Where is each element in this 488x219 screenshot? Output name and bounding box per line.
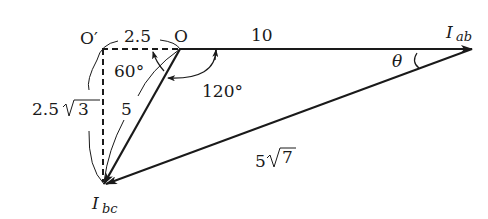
label-2-5-root3: 2.5 3	[32, 99, 100, 119]
label-2-5: 2.5	[124, 26, 151, 46]
label-o-prime: O′	[80, 28, 98, 48]
dimension-arc-5	[138, 49, 180, 96]
dimension-arc-5-lower	[104, 120, 124, 182]
label-o: O	[174, 26, 188, 46]
angle-arc-60	[153, 52, 164, 71]
svg-text:3: 3	[78, 99, 89, 119]
dimension-arc-2-5-root3	[88, 60, 97, 90]
label-120-deg: 120°	[202, 81, 243, 101]
svg-text:I: I	[445, 22, 453, 42]
label-5-root7: 5 7	[255, 147, 296, 171]
label-theta: θ	[392, 51, 402, 71]
svg-text:2.5: 2.5	[32, 99, 59, 119]
angle-arc-theta	[414, 53, 419, 68]
phasor-diagram: O′ O 2.5 10 60° 120° 5 2.5 3 5 7 θ I ab …	[0, 0, 488, 219]
svg-text:7: 7	[282, 147, 293, 167]
svg-text:I: I	[91, 193, 99, 213]
label-i-bc: I bc	[91, 193, 118, 216]
dimension-arc-2-5	[97, 41, 118, 60]
label-60-deg: 60°	[114, 61, 144, 81]
label-10: 10	[251, 25, 273, 45]
svg-text:5: 5	[255, 151, 266, 171]
dimension-arc-2-5-root3-lower	[89, 131, 104, 184]
svg-text:bc: bc	[102, 201, 118, 216]
label-5: 5	[121, 99, 132, 119]
label-i-ab: I ab	[445, 22, 472, 44]
svg-text:ab: ab	[456, 29, 472, 44]
angle-arc-120	[168, 49, 216, 78]
